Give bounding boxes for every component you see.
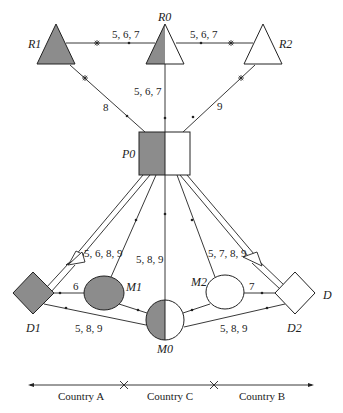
- node-p0: P0: [121, 132, 190, 175]
- asterisk-icon: [228, 40, 234, 46]
- asterisk-icon: [238, 75, 244, 81]
- asterisk-icon: [82, 75, 88, 81]
- edge-label-m0-p0: 5, 8, 9: [136, 253, 164, 265]
- node-d-label: D: [322, 288, 332, 302]
- node-r2-label: R2: [278, 37, 292, 51]
- edge-label-m2-d2: 7: [249, 280, 255, 292]
- edge-label-r1-r0: 5, 6, 7: [112, 28, 140, 40]
- country-axis: Country A Country C Country B: [28, 381, 314, 402]
- node-m1-label: M1: [125, 280, 142, 294]
- double-arrow-p0-d2: [180, 175, 285, 289]
- node-m0: M0: [146, 300, 184, 356]
- edge-label-p0-d2: 5, 7, 8, 9: [208, 247, 247, 259]
- edge-label-r2-p0: 9: [217, 100, 223, 112]
- asterisk-icon: [94, 40, 100, 46]
- node-d1: D1: [13, 272, 54, 335]
- node-m2-label: M2: [190, 275, 207, 289]
- node-d2: D2 D: [275, 272, 332, 335]
- country-c-label: Country C: [147, 390, 193, 402]
- arrow-right-icon: [308, 383, 314, 387]
- edge-m2-p0: [177, 175, 215, 277]
- country-a-label: Country A: [58, 390, 104, 402]
- node-r1-label: R1: [27, 37, 41, 51]
- node-r2: R2: [244, 24, 292, 64]
- node-r1: R1: [27, 24, 75, 64]
- edge-r2-p0: [183, 65, 255, 132]
- edge-label-r1-p0: 8: [103, 101, 109, 113]
- edge-label-m0-d2: 5, 8, 9: [220, 322, 248, 334]
- edge-label-m0-d1: 5, 8, 9: [75, 322, 103, 334]
- edge-m2-m0: [183, 304, 210, 313]
- node-r0: R0: [146, 10, 184, 64]
- edge-label-p0-d1: 5, 6, 8, 9: [84, 247, 123, 259]
- edge-r1-p0: [70, 65, 145, 132]
- node-r0-label: R0: [157, 10, 171, 24]
- trade-flow-diagram: R1 R0 R2 P0 D1 M1 M0 M2: [0, 0, 343, 413]
- edge-label-m1-d1: 6: [73, 280, 79, 292]
- edge-label-r2-r0: 5, 6, 7: [190, 28, 218, 40]
- node-m1: M1: [84, 276, 142, 310]
- arrow-left-icon: [28, 383, 34, 387]
- node-m0-label: M0: [156, 342, 173, 356]
- node-m2: M2: [190, 275, 244, 309]
- edge-m1-m0: [119, 304, 147, 313]
- node-d1-label: D1: [25, 321, 41, 335]
- node-d2-label: D2: [286, 321, 302, 335]
- node-p0-label: P0: [121, 147, 135, 161]
- edge-label-r0-p0: 5, 6, 7: [134, 85, 162, 97]
- country-b-label: Country B: [239, 390, 285, 402]
- double-arrow-p0-d1: [45, 175, 150, 292]
